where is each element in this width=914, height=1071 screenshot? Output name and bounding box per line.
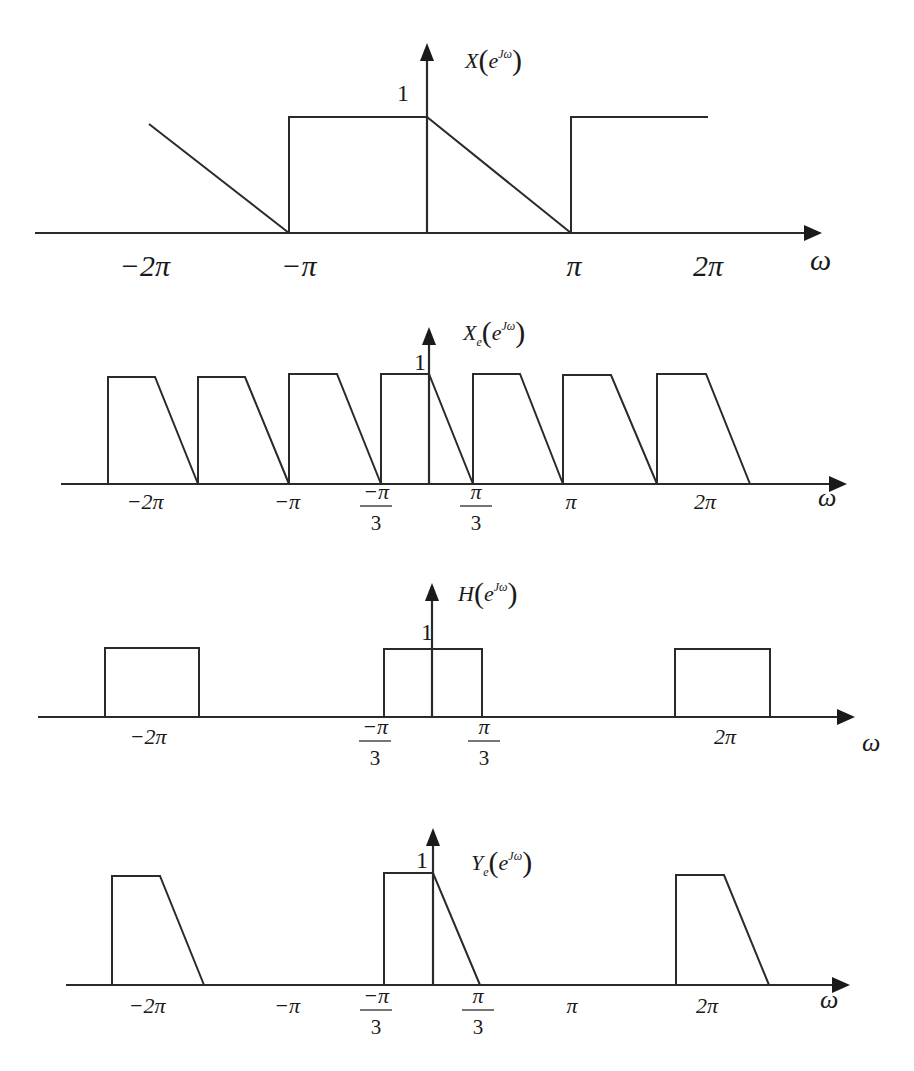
function-label: X(eJω) [464,43,522,77]
spectrum-segment [112,876,204,985]
spectrum-segment [108,377,198,484]
fraction-numerator: −π [363,479,390,504]
fraction-numerator: π [472,983,484,1008]
spectrum-segment [657,374,750,484]
spectrum-segment [105,648,199,717]
x-axis-arrow-icon [837,709,855,725]
spectrum-segment [381,374,473,484]
spectrum-segment [198,377,289,484]
x-tick-fraction: −π3 [360,983,392,1039]
h-filter-plot: 1H(eJω)−2π−π3π32πω [38,576,880,770]
x-tick-fraction: π3 [462,983,494,1039]
spectrum-figure: 1X(eJω)−2π−ππ2πω1Xe(eJω)−2π−π−π3π3π2πω1H… [0,0,914,1071]
x-tick-label: −2π [120,249,171,282]
spectrum-segment [676,875,769,985]
omega-axis-label: ω [810,243,831,276]
x-tick-label: −2π [127,489,165,514]
y-axis-arrow-icon [420,43,434,61]
spectrum-segment [571,117,708,233]
fraction-denominator: 3 [473,1015,484,1039]
spectrum-segment [675,649,770,717]
xe-spectrum-plot: 1Xe(eJω)−2π−π−π3π3π2πω [61,315,847,535]
y-axis-arrow-icon [426,828,440,846]
x-tick-label: −π [274,489,301,514]
function-label: Ye(eJω) [471,845,532,879]
x-tick-fraction: π3 [460,479,492,535]
y-axis-arrow-icon [425,583,439,601]
function-label: H(eJω) [457,576,517,610]
x-tick-label: 2π [696,993,719,1018]
fraction-numerator: −π [362,714,389,739]
fraction-numerator: −π [363,983,390,1008]
x-tick-label: 2π [694,489,717,514]
x-tick-label: −2π [130,724,168,749]
omega-axis-label: ω [818,483,836,512]
fraction-denominator: 3 [370,746,381,770]
spectrum-segment [149,124,289,233]
x-tick-label: 2π [714,724,737,749]
y-axis-arrow-icon [422,327,436,345]
spectrum-segment [289,117,571,233]
unit-level-label: 1 [416,847,428,873]
x-tick-fraction: −π3 [360,479,392,535]
x-axis-arrow-icon [804,225,822,241]
x-tick-fraction: −π3 [359,714,391,770]
x-tick-label: π [565,489,577,514]
fraction-denominator: 3 [479,746,490,770]
fraction-numerator: π [478,714,490,739]
function-label: Xe(eJω) [462,315,525,349]
x-spectrum-plot: 1X(eJω)−2π−ππ2πω [35,43,831,282]
spectrum-segment [473,374,563,484]
spectrum-segment [563,375,657,484]
fraction-denominator: 3 [371,1015,382,1039]
omega-axis-label: ω [820,985,838,1014]
x-tick-label: π [566,993,578,1018]
x-tick-label: −2π [129,993,167,1018]
fraction-denominator: 3 [371,511,382,535]
unit-level-label: 1 [414,349,426,375]
x-tick-fraction: π3 [468,714,500,770]
unit-level-label: 1 [421,619,433,645]
fraction-denominator: 3 [471,511,482,535]
x-tick-label: π [566,249,582,282]
x-tick-label: 2π [693,249,724,282]
x-tick-label: −π [281,249,317,282]
fraction-numerator: π [470,479,482,504]
plots-container: 1X(eJω)−2π−ππ2πω1Xe(eJω)−2π−π−π3π3π2πω1H… [35,43,880,1039]
ye-spectrum-plot: 1Ye(eJω)−2π−π−π3π3π2πω [66,828,850,1039]
unit-level-label: 1 [397,80,409,106]
spectrum-segment [289,374,381,484]
omega-axis-label: ω [862,728,880,757]
x-tick-label: −π [274,993,301,1018]
